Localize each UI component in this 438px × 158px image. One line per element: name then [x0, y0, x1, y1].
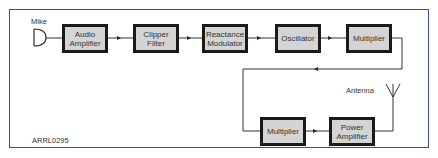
block-power-amplifier: Power Amplifier	[329, 117, 375, 146]
block-multiplier-1: Multiplier	[346, 24, 392, 53]
arrow-icon	[314, 67, 318, 71]
arrow-icon	[257, 36, 261, 40]
block-audio-amplifier: Audio Amplifier	[62, 24, 108, 53]
arrow-icon	[117, 36, 121, 40]
block-multiplier-2: Multiplier	[260, 117, 306, 146]
mike-label: Mike	[31, 17, 47, 26]
block-reactance-modulator: Reactance Modulator	[202, 24, 248, 53]
arrow-icon	[328, 36, 332, 40]
wire-power-amp-to-antenna	[375, 96, 393, 131]
block-clipper-filter: Clipper Filter	[133, 24, 179, 53]
arrow-icon	[187, 36, 191, 40]
antenna-label: Antenna	[346, 86, 374, 95]
figure-id-label: ARRL0295	[32, 136, 69, 145]
microphone-icon	[34, 29, 46, 46]
arrow-icon	[313, 129, 317, 133]
antenna-icon	[386, 84, 400, 97]
block-oscillator: Oscillator	[275, 24, 321, 53]
